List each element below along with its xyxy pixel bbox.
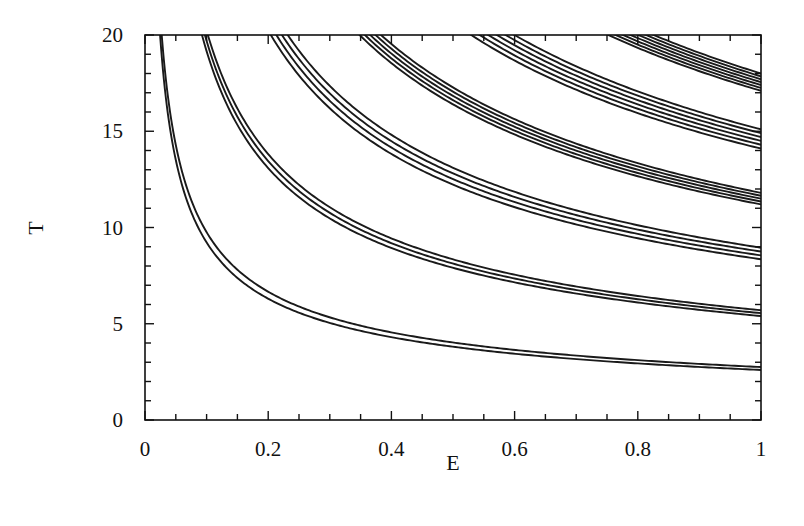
y-tick-labels: 05101520 [102, 23, 123, 432]
curve [147, 0, 761, 149]
y-tick-label: 15 [102, 119, 123, 143]
x-tick-label: 0.8 [625, 437, 651, 461]
band-5 [147, 0, 761, 149]
y-tick-label: 5 [113, 312, 124, 336]
y-axis-label: T [23, 221, 48, 235]
y-tick-label: 0 [113, 408, 124, 432]
x-tick-label: 0.2 [255, 437, 281, 461]
y-tick-label: 20 [102, 23, 123, 47]
curve [147, 0, 761, 196]
x-axis-label: E [446, 450, 459, 475]
x-tick-label: 0.4 [378, 437, 405, 461]
line-chart: 00.20.40.60.81 05101520 E T [0, 0, 804, 526]
x-tick-label: 0 [140, 437, 151, 461]
curve [147, 0, 761, 137]
band-6 [147, 0, 761, 91]
curve [147, 0, 761, 85]
x-tick-label: 1 [756, 437, 767, 461]
x-tick-label: 0.6 [501, 437, 527, 461]
curve-bands [147, 0, 761, 370]
y-tick-label: 10 [102, 216, 123, 240]
